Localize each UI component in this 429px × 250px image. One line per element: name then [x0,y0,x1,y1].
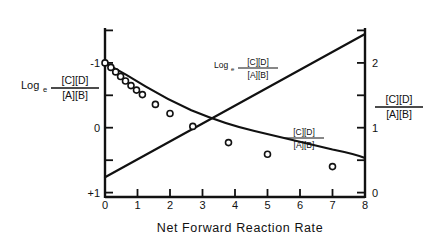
data-point-marker [123,78,129,84]
series-ratio-curve [102,60,365,170]
data-point-marker [152,101,158,107]
x-tick-label-7: 7 [329,199,335,211]
chart-figure: 0 1 2 3 4 5 6 7 8 -1 0 +1 2 1 0 Log e [C… [0,0,429,250]
left-axis-title-log-subscript: e [43,85,47,94]
x-axis-title: Net Forward Reaction Rate [157,221,323,235]
x-tick-label-6: 6 [297,199,303,211]
ratio-curve-annotation-numerator: [C][D] [293,127,315,137]
log-line-annotation-log-subscript: e [231,66,235,72]
left-axis-title-numerator: [C][D] [62,74,89,86]
data-point-marker [139,92,145,98]
data-point-marker [128,83,134,89]
left-tick-label-zero: 0 [94,122,100,134]
right-axis-title-denominator: [A][B] [386,108,412,120]
right-axis-title: [C][D] [A][B] [375,93,423,120]
x-tick-label-4: 4 [232,199,238,211]
data-point-marker [190,123,196,129]
left-tick-label-minus-one: -1 [90,57,100,69]
x-tick-labels: 0 1 2 3 4 5 6 7 8 [102,199,368,211]
left-tick-label-plus-one: +1 [87,187,100,199]
data-point-marker [102,60,108,66]
right-tick-label-two: 2 [372,57,378,69]
data-point-marker [167,111,173,117]
ratio-curve-annotation-denominator: [A][B] [294,140,315,150]
x-tick-label-8: 8 [362,199,368,211]
data-point-marker [330,164,336,170]
right-axis-title-numerator: [C][D] [386,93,413,105]
right-tick-label-one: 1 [372,122,378,134]
data-point-marker [134,87,140,93]
data-point-marker [226,140,232,146]
x-tick-label-0: 0 [102,199,108,211]
log-line-annotation-numerator: [C][D] [247,57,269,67]
axes-group [105,28,365,198]
left-axis-title-log-word: Log [21,79,39,91]
chart-svg: 0 1 2 3 4 5 6 7 8 -1 0 +1 2 1 0 Log e [C… [0,0,429,250]
data-point-marker [265,151,271,157]
log-line-annotation-log-word: Log [214,60,228,70]
left-axis-title: Log e [C][D] [A][B] [21,74,99,101]
left-axis-title-denominator: [A][B] [62,89,88,101]
log-line-path [105,34,365,177]
x-tick-label-2: 2 [167,199,173,211]
right-tick-label-zero: 0 [372,187,378,199]
left-tick-labels: -1 0 +1 [87,57,100,199]
right-tick-labels: 2 1 0 [372,57,378,199]
log-line-annotation: Log e [C][D] [A][B] [214,57,278,80]
series-log-line [105,34,365,177]
x-tick-label-1: 1 [134,199,140,211]
ratio-curve-path [105,63,365,158]
log-line-annotation-denominator: [A][B] [248,70,269,80]
x-tick-label-3: 3 [199,199,205,211]
x-tick-label-5: 5 [264,199,270,211]
